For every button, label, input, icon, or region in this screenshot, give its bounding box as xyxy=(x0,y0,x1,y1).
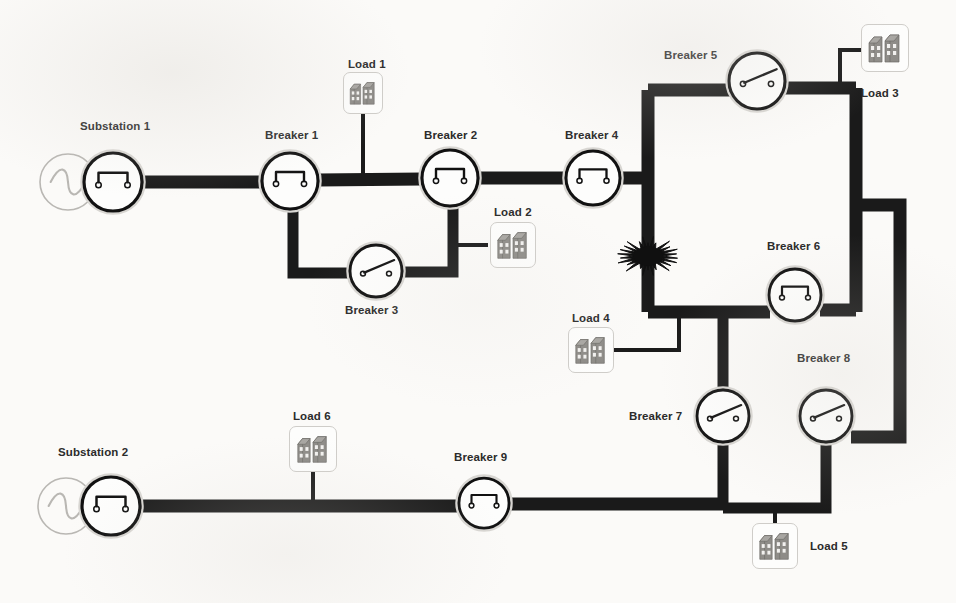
breaker-7-icon[interactable] xyxy=(695,388,752,445)
load-6-label: Load 6 xyxy=(293,410,331,422)
breaker-9-icon[interactable] xyxy=(457,476,512,531)
symbols-layer xyxy=(0,0,956,603)
load-2-building-icon xyxy=(494,226,532,264)
breaker-1-icon[interactable] xyxy=(260,151,321,212)
load-3-building-icon xyxy=(865,28,905,68)
breaker-4-icon[interactable] xyxy=(564,149,623,208)
substation-1-breaker-icon[interactable] xyxy=(82,151,145,214)
breaker-5-icon[interactable] xyxy=(727,51,788,112)
breaker-5-label: Breaker 5 xyxy=(664,49,717,61)
breaker-1-label: Breaker 1 xyxy=(265,129,318,141)
breaker-4-label: Breaker 4 xyxy=(565,129,618,141)
breaker-8-label: Breaker 8 xyxy=(797,352,850,364)
load-2-box[interactable] xyxy=(490,222,536,268)
load-4-building-icon xyxy=(572,331,610,369)
substation-1-label: Substation 1 xyxy=(80,120,150,132)
load-4-label: Load 4 xyxy=(572,312,610,324)
load-3-label: Load 3 xyxy=(861,87,899,99)
breaker-7-label: Breaker 7 xyxy=(629,410,682,422)
load-4-box[interactable] xyxy=(568,327,614,373)
breaker-9-label: Breaker 9 xyxy=(454,451,507,463)
substation-2-breaker-icon[interactable] xyxy=(80,475,143,538)
breaker-3-icon[interactable] xyxy=(348,243,405,300)
network-diagram-canvas: Substation 1Substation 2Breaker 1Breaker… xyxy=(0,0,956,603)
breaker-2-label: Breaker 2 xyxy=(424,129,477,141)
breaker-3-label: Breaker 3 xyxy=(345,304,398,316)
load-1-building-icon xyxy=(347,76,379,110)
load-2-label: Load 2 xyxy=(494,206,532,218)
load-6-building-icon xyxy=(293,430,333,468)
substation-2-label: Substation 2 xyxy=(58,446,128,458)
breaker-6-label: Breaker 6 xyxy=(767,240,820,252)
fault-starburst-icon xyxy=(618,236,678,275)
load-1-box[interactable] xyxy=(343,72,383,114)
breaker-6-icon[interactable] xyxy=(767,267,824,324)
load-5-label: Load 5 xyxy=(810,540,848,552)
load-5-box[interactable] xyxy=(752,523,798,569)
load-3-box[interactable] xyxy=(861,24,909,72)
load-1-label: Load 1 xyxy=(348,58,386,70)
load-5-building-icon xyxy=(756,527,794,565)
breaker-8-icon[interactable] xyxy=(798,388,855,445)
breaker-2-icon[interactable] xyxy=(420,148,481,209)
load-6-box[interactable] xyxy=(289,426,337,472)
